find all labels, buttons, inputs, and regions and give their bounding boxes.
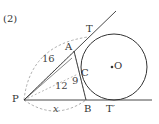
- point-label-T: T: [86, 24, 93, 34]
- point-label-O: O: [114, 61, 122, 71]
- segment-PA-inner: [24, 58, 72, 100]
- point-label-P: P: [12, 94, 19, 104]
- center-point-O: [111, 66, 114, 69]
- geometry-figure: [0, 0, 159, 124]
- length-label-16: 16: [42, 54, 55, 64]
- point-label-C: C: [81, 68, 89, 78]
- point-label-T-prime: T′: [106, 104, 115, 114]
- point-label-A: A: [65, 42, 72, 52]
- point-label-B: B: [84, 104, 91, 114]
- length-label-12: 12: [55, 81, 68, 91]
- length-label-x: x: [53, 104, 59, 114]
- tangent-line-PT: [24, 11, 116, 100]
- dashed-P-to-C: [24, 74, 78, 100]
- problem-number: (2): [3, 14, 17, 24]
- length-label-9: 9: [72, 76, 78, 86]
